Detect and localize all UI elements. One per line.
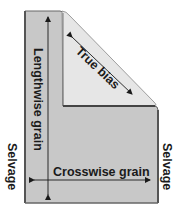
lengthwise-grain-label: Lengthwise grain: [31, 48, 45, 151]
crosswise-grain-label: Crosswise grain: [53, 165, 150, 179]
folded-bias-corner: [62, 11, 156, 106]
selvage-right-label: Selvage: [160, 143, 174, 190]
selvage-left-label: Selvage: [5, 143, 19, 190]
fabric-grain-diagram: Lengthwise grain Crosswise grain True bi…: [0, 0, 187, 215]
